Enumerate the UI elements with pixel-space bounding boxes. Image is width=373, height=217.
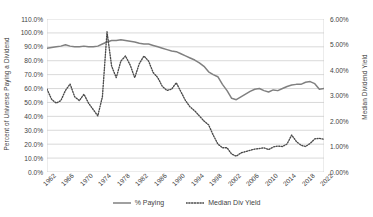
plot-area — [47, 19, 324, 172]
series-line-median-div-yield — [47, 32, 324, 156]
y-axis-left-tick-label: 60.0% — [24, 85, 43, 92]
y-axis-left-tick-label: 50.0% — [24, 99, 43, 106]
chart-legend: % PayingMedian Div Yield — [0, 196, 373, 210]
legend-entry[interactable]: Median Div Yield — [186, 199, 260, 207]
legend-label: Median Div Yield — [208, 199, 260, 207]
legend-swatch-solid-line-icon — [113, 199, 131, 207]
y-axis-right-tick-label: 0.00% — [330, 169, 349, 176]
y-axis-right-tick-label: 6.00% — [330, 16, 349, 23]
y-axis-left-tick-label: 0.0% — [28, 169, 43, 176]
y-axis-left-tick-label: 90.0% — [24, 43, 43, 50]
legend-swatch-dotted-line-icon — [186, 199, 204, 207]
y-axis-right-tick-label: 4.00% — [330, 67, 349, 74]
y-axis-right-tick-label: 3.00% — [330, 92, 349, 99]
y-axis-left-tick-label: 10.0% — [24, 155, 43, 162]
series-line-paying — [47, 40, 324, 100]
y-axis-right-title: Median Dividend Yield — [360, 22, 370, 152]
y-axis-right-tick-label: 2.00% — [330, 118, 349, 125]
y-axis-left-tick-label: 70.0% — [24, 71, 43, 78]
plot-svg — [47, 19, 324, 172]
y-axis-right-ticks: 0.00%1.00%2.00%3.00%4.00%5.00%6.00% — [327, 0, 361, 217]
y-axis-left-tick-label: 80.0% — [24, 57, 43, 64]
y-axis-left-tick-label: 40.0% — [24, 113, 43, 120]
y-axis-left-tick-label: 20.0% — [24, 141, 43, 148]
y-axis-left-tick-label: 110.0% — [21, 16, 43, 23]
dividend-chart: Percent of Universe Paying a Dividend Me… — [0, 0, 373, 217]
y-axis-left-tick-label: 30.0% — [24, 127, 43, 134]
y-axis-right-tick-label: 1.00% — [330, 143, 349, 150]
y-axis-left-tick-label: 100.0% — [21, 29, 43, 36]
y-axis-right-tick-label: 5.00% — [330, 41, 349, 48]
legend-label: % Paying — [135, 199, 165, 207]
legend-entry[interactable]: % Paying — [113, 199, 165, 207]
